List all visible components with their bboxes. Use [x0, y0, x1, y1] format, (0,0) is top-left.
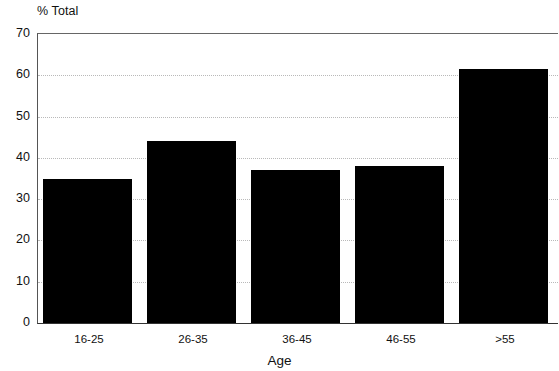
bar	[355, 166, 444, 323]
bar	[459, 69, 548, 323]
bar-chart: % Total 706050403020100 16-2526-3536-454…	[0, 0, 559, 371]
x-tick-label: 46-55	[349, 332, 453, 346]
y-tick-label: 60	[0, 68, 30, 80]
y-tick-label: 40	[0, 151, 30, 163]
x-tick-label: 36-45	[245, 332, 349, 346]
x-axis-title: Age	[0, 353, 559, 369]
x-tick-label: >55	[453, 332, 557, 346]
bar	[43, 179, 132, 324]
x-tick-label: 16-25	[37, 332, 141, 346]
bar	[147, 141, 236, 323]
y-tick-label: 20	[0, 233, 30, 245]
bars-layer	[38, 34, 558, 323]
x-axis-tick-labels: 16-2526-3536-4546-55>55	[37, 332, 557, 350]
y-axis-title: % Total	[37, 4, 78, 18]
y-tick-label: 0	[0, 316, 30, 328]
y-tick-label: 70	[0, 27, 30, 39]
y-tick-label: 10	[0, 275, 30, 287]
y-tick-label: 30	[0, 192, 30, 204]
x-tick-label: 26-35	[141, 332, 245, 346]
y-tick-label: 50	[0, 110, 30, 122]
bar	[251, 170, 340, 323]
y-axis-tick-labels: 706050403020100	[0, 0, 32, 371]
plot-area	[37, 33, 558, 324]
